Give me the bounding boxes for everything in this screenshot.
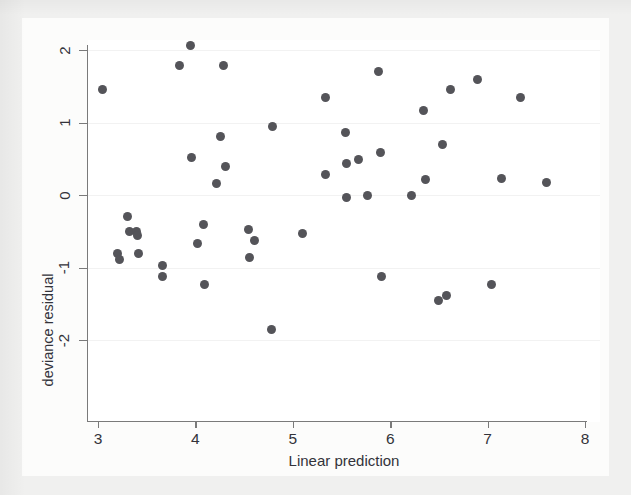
gridline-y: [88, 123, 600, 124]
y-axis-tick-label: 0: [52, 184, 76, 206]
y-axis-tick-label: -2: [52, 329, 76, 351]
x-axis-tick-label: 3: [83, 430, 113, 448]
scatter-point: [216, 132, 225, 141]
scatter-point: [419, 106, 428, 115]
x-axis-line: [87, 421, 587, 422]
scatter-point: [193, 239, 202, 248]
y-axis-tick: [79, 268, 87, 269]
scatter-point: [446, 85, 455, 94]
scatter-point: [298, 229, 307, 238]
scatter-point: [438, 140, 447, 149]
scatter-point: [123, 212, 132, 221]
scatter-point: [354, 155, 363, 164]
y-axis-tick-label: -1: [52, 257, 76, 279]
x-axis-tick: [585, 421, 586, 428]
x-axis-tick-label: 7: [473, 430, 503, 448]
y-axis-tick: [79, 123, 87, 124]
scatter-point: [134, 249, 143, 258]
scatter-point: [115, 255, 124, 264]
scatter-point: [342, 193, 351, 202]
scatter-point: [158, 261, 167, 270]
scatter-plot-figure: deviance residual Linear prediction 210-…: [0, 0, 631, 495]
y-axis-line: [87, 45, 88, 422]
x-axis-tick: [293, 421, 294, 428]
gridline-y: [88, 50, 600, 51]
y-axis-tick: [79, 50, 87, 51]
x-axis-tick-label: 8: [570, 430, 600, 448]
x-axis-tick-label: 6: [375, 430, 405, 448]
x-axis-title: Linear prediction: [88, 452, 600, 469]
x-axis-tick: [98, 421, 99, 428]
plot-area-wrapper: deviance residual Linear prediction 210-…: [0, 0, 631, 495]
scatter-point: [497, 174, 506, 183]
y-axis-tick: [79, 340, 87, 341]
scatter-point: [187, 153, 196, 162]
x-axis-tick: [195, 421, 196, 428]
scatter-point: [487, 280, 496, 289]
scatter-point: [221, 162, 230, 171]
x-axis-tick-label: 5: [278, 430, 308, 448]
x-axis-tick-label: 4: [180, 430, 210, 448]
scatter-point: [377, 272, 386, 281]
x-axis-tick: [488, 421, 489, 428]
y-axis-title: deviance residual: [26, 150, 54, 330]
scatter-point: [421, 175, 430, 184]
y-axis-tick-label: 1: [52, 112, 76, 134]
x-axis-tick: [390, 421, 391, 428]
scatter-point: [175, 61, 184, 70]
scatter-point: [199, 220, 208, 229]
y-axis-tick: [79, 195, 87, 196]
scatter-point: [542, 178, 551, 187]
gridline-y: [88, 340, 600, 341]
y-axis-tick-label: 2: [52, 39, 76, 61]
scatter-point: [200, 280, 209, 289]
scatter-point: [341, 128, 350, 137]
